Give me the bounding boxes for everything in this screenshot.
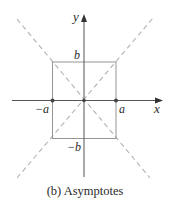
label-neg-b: −b	[67, 140, 81, 154]
label-a: a	[119, 102, 125, 116]
y-axis-arrow-icon	[81, 14, 87, 22]
label-b: b	[74, 48, 80, 62]
label-neg-a: −a	[35, 102, 49, 116]
point-origin	[82, 99, 86, 103]
point-a	[114, 99, 118, 103]
x-axis-label: x	[153, 101, 160, 116]
asymptotes-diagram: y x b −b a −a (b) Asymptotes	[0, 0, 171, 205]
y-axis-label: y	[71, 9, 79, 24]
asymptote-positive-slope	[17, 18, 153, 178]
point-neg-a	[51, 99, 55, 103]
figure-caption: (b) Asymptotes	[47, 184, 124, 198]
